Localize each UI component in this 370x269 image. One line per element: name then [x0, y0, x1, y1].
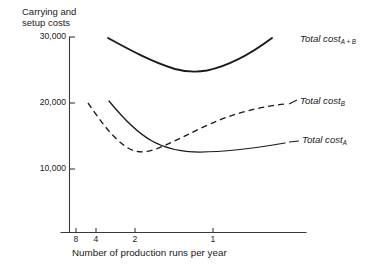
curve-total-cost-a-plus-b [108, 38, 272, 72]
y-axis-title-line2: setup costs [22, 17, 76, 28]
chart-container: Carrying and setup costs 30,000 20,000 1… [0, 0, 370, 269]
series-label-total-cost-a-plus-b: Total costA + B [300, 33, 356, 44]
series-label-sub-b: B [341, 100, 345, 107]
series-label-total-cost-b: Total costB [300, 95, 345, 106]
leader-line-total-cost-b [289, 100, 297, 104]
x-axis-title: Number of production runs per year [72, 247, 227, 259]
leader-line-total-cost-a [289, 141, 299, 142]
series-label-sub-a: A [343, 139, 347, 146]
series-label-total-cost-a: Total costA [302, 134, 347, 145]
x-tick-label-1: 1 [203, 234, 223, 244]
y-tick-label-10000: 10,000 [18, 163, 66, 173]
y-tick-label-20000: 20,000 [18, 97, 66, 107]
series-label-sub-a-plus-b: A + B [341, 38, 356, 45]
x-tick-label-4: 4 [86, 234, 106, 244]
y-axis-title: Carrying and setup costs [22, 6, 76, 28]
series-label-text-a-plus-b: Total cost [300, 33, 341, 44]
x-tick-label-2: 2 [125, 234, 145, 244]
y-axis-title-line1: Carrying and [22, 6, 76, 17]
y-tick-label-30000: 30,000 [18, 31, 66, 41]
series-label-text-a: Total cost [302, 134, 343, 145]
x-tick-label-8: 8 [66, 234, 86, 244]
series-label-text-b: Total cost [300, 95, 341, 106]
